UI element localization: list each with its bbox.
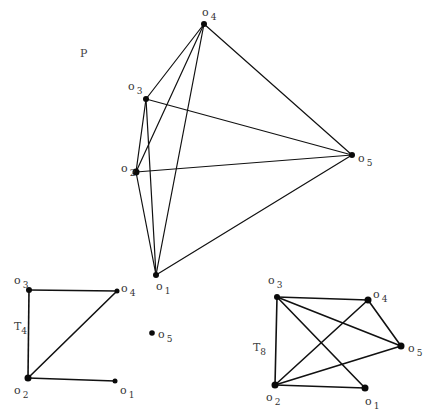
node-T8-o4 <box>365 297 372 304</box>
edge-T4-o3-o4 <box>29 290 117 291</box>
graph-title-T8-sub: 8 <box>260 347 266 357</box>
edge-T4-o3-o2 <box>28 290 29 378</box>
node-T8-o1 <box>362 385 369 392</box>
node-label-T8-o5: o5 <box>408 342 423 358</box>
label-group-T4: o1o2o3o4o5 <box>14 274 173 400</box>
node-label-P-o4: o4 <box>202 6 217 22</box>
edge-P-o2-o5 <box>136 155 352 172</box>
node-label-T4-o3: o3 <box>14 274 29 290</box>
node-label-P-o3: o3 <box>128 80 143 96</box>
graph-T4: T4 o1o2o3o4o5 <box>14 274 173 400</box>
edge-T8-o3-o2 <box>275 297 277 385</box>
edge-T8-o5-o2 <box>275 346 401 385</box>
node-label-P-o2: o2 <box>121 162 135 178</box>
node-P-o1 <box>153 272 159 278</box>
node-group-T4 <box>25 287 155 384</box>
node-P-o4 <box>201 21 207 27</box>
node-label-T8-o4: o4 <box>373 288 388 304</box>
edge-T8-o3-o4 <box>277 297 368 300</box>
graph-title-T4-sub: 4 <box>21 326 27 336</box>
node-label-T8-o1: o1 <box>365 395 379 411</box>
label-group-P: o1o2o3o4o5 <box>121 6 373 296</box>
edge-T8-o4-o2 <box>275 300 368 385</box>
node-label-T4-o1: o1 <box>120 384 134 400</box>
edge-P-o4-o1 <box>156 24 204 275</box>
node-T4-o2 <box>25 375 32 382</box>
node-T4-o4 <box>115 289 120 294</box>
edge-group-T8 <box>275 297 401 388</box>
node-label-P-o1: o1 <box>156 280 170 296</box>
node-group-T8 <box>272 294 405 392</box>
node-T8-o2 <box>272 382 279 389</box>
graph-title-T4: T4 <box>14 320 27 336</box>
node-T4-o1 <box>113 379 118 384</box>
edge-T4-o4-o2 <box>28 291 117 378</box>
graph-diagram-canvas: P o1o2o3o4o5 T4 o1o2o3o4o5 T8 o1o2o3o4o5 <box>0 0 427 416</box>
node-T8-o5 <box>398 343 405 350</box>
node-P-o5 <box>349 152 355 158</box>
edge-T4-o2-o1 <box>28 378 115 381</box>
node-label-T4-o4: o4 <box>121 282 136 298</box>
graph-T8: T8 o1o2o3o4o5 <box>253 274 423 411</box>
node-T8-o3 <box>274 294 280 300</box>
graph-title-P: P <box>80 47 88 60</box>
node-label-T8-o3: o3 <box>268 274 283 290</box>
edge-T8-o3-o5 <box>277 297 401 346</box>
node-label-T4-o5: o5 <box>158 328 173 344</box>
graph-title-T8: T8 <box>253 341 266 357</box>
edge-group-P <box>136 24 352 275</box>
edge-group-T4 <box>28 290 117 381</box>
edge-P-o1-o5 <box>156 155 352 275</box>
node-label-T4-o2: o2 <box>14 384 28 400</box>
edge-T8-o2-o1 <box>275 385 365 388</box>
node-T4-o5 <box>149 330 155 336</box>
node-label-T8-o2: o2 <box>266 391 280 407</box>
graph-P: P o1o2o3o4o5 <box>80 6 373 296</box>
node-label-P-o5: o5 <box>358 152 373 168</box>
node-P-o3 <box>143 96 149 102</box>
